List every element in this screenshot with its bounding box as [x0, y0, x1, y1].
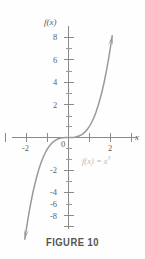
- y-tick-label-neg4: -4: [50, 188, 57, 197]
- equation-annotation: f(x) = x3: [82, 157, 111, 166]
- y-tick-label-6: 6: [53, 56, 57, 65]
- figure-container: f(x) x 8 6 4 2 -2 -4 -6 -8 -2 0 2 f(x) =…: [0, 0, 145, 259]
- x-tick-label-2: 2: [108, 144, 112, 153]
- y-tick-label-4: 4: [53, 78, 57, 87]
- y-tick-label-neg6: -6: [50, 200, 57, 209]
- y-tick-label-neg8: -8: [50, 212, 57, 221]
- equation-text: f(x) = x: [82, 156, 108, 166]
- equation-exponent: 3: [108, 155, 111, 161]
- x-tick-label-neg2: -2: [22, 144, 29, 153]
- y-tick-label-neg2: -2: [50, 166, 57, 175]
- x-axis-label: x: [135, 133, 139, 142]
- figure-caption: FIGURE 10: [13, 236, 132, 248]
- x-tick-label-0: 0: [61, 140, 65, 149]
- y-tick-label-2: 2: [53, 101, 57, 110]
- y-axis-label: f(x): [44, 18, 57, 27]
- y-tick-label-8: 8: [53, 33, 57, 42]
- cubic-function-plot: [0, 0, 145, 259]
